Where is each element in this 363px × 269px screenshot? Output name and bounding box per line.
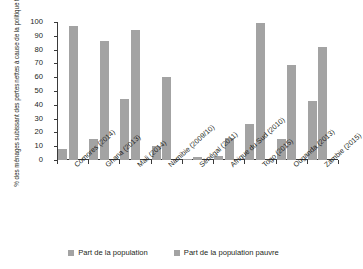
x-tick bbox=[88, 160, 89, 164]
y-axis-title-line-2: nettes à cause de la politique fiscale bbox=[13, 0, 20, 83]
bar-group bbox=[57, 22, 88, 160]
y-tick-label: 40 bbox=[19, 101, 43, 109]
y-tick-label: 10 bbox=[19, 142, 43, 150]
x-tick bbox=[151, 160, 152, 164]
x-tick bbox=[57, 160, 58, 164]
legend-swatch-poor-population bbox=[174, 250, 180, 256]
legend-swatch-population bbox=[68, 250, 74, 256]
y-tick-label: 80 bbox=[19, 46, 43, 54]
bar-group bbox=[151, 22, 182, 160]
x-tick bbox=[276, 160, 277, 164]
x-tick bbox=[213, 160, 214, 164]
y-tick-label: 90 bbox=[19, 32, 43, 40]
y-tick-label: 50 bbox=[19, 87, 43, 95]
bar bbox=[69, 26, 78, 160]
y-tick-label: 30 bbox=[19, 115, 43, 123]
x-tick bbox=[119, 160, 120, 164]
x-tick bbox=[182, 160, 183, 164]
y-tick-label: 70 bbox=[19, 60, 43, 68]
legend-label-population: Part de la population bbox=[78, 248, 148, 257]
x-tick bbox=[307, 160, 308, 164]
x-tick bbox=[338, 160, 339, 164]
chart-legend: Part de la population Part de la populat… bbox=[0, 248, 347, 257]
y-tick-label: 20 bbox=[19, 129, 43, 137]
legend-item-population: Part de la population bbox=[68, 248, 148, 257]
x-tick bbox=[244, 160, 245, 164]
y-tick-label: 60 bbox=[19, 73, 43, 81]
legend-item-poor-population: Part de la population pauvre bbox=[174, 248, 279, 257]
bar bbox=[183, 159, 192, 160]
y-tick-label: 0 bbox=[19, 156, 43, 164]
y-tick-label: 100 bbox=[19, 18, 43, 26]
bar bbox=[58, 149, 67, 160]
legend-label-poor-population: Part de la population pauvre bbox=[184, 248, 279, 257]
